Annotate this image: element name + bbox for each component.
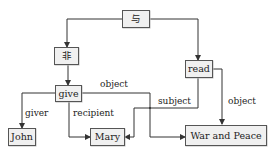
node-war-and-peace-label: War and Peace	[190, 131, 261, 141]
node-and: 与	[122, 10, 150, 28]
node-not-label: 非	[62, 51, 72, 61]
node-mary: Mary	[90, 128, 125, 146]
node-read-label: read	[188, 64, 210, 74]
node-give: give	[55, 85, 82, 102]
node-war-and-peace: War and Peace	[185, 125, 267, 146]
edge-and-read	[150, 19, 198, 60]
edge-label-giver: giver	[25, 109, 48, 118]
node-and-label: 与	[131, 14, 141, 24]
edge-label-give-object: object	[100, 80, 128, 89]
node-john: John	[8, 128, 36, 146]
node-give-label: give	[58, 89, 78, 99]
node-read: read	[185, 60, 213, 78]
edge-read-wap	[213, 69, 222, 124]
edge-label-read-object: object	[228, 97, 256, 106]
node-john-label: John	[11, 132, 33, 142]
edge-label-recipient: recipient	[73, 109, 114, 118]
node-not: 非	[54, 47, 79, 65]
diagram-canvas: 与 非 read give John Mary War and Peace gi…	[0, 0, 271, 157]
edge-crossing-dot	[149, 107, 151, 109]
edge-label-subject: subject	[158, 97, 191, 106]
edge-and-not	[67, 19, 122, 47]
node-mary-label: Mary	[95, 132, 120, 142]
